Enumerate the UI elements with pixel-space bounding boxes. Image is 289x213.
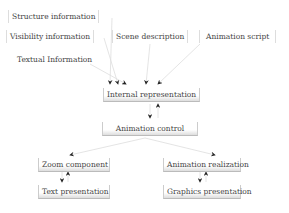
- text-presentation-box: Text presentation: [38, 185, 110, 199]
- structure-information-box: Structure information: [8, 10, 99, 23]
- internal-representation-box: Internal representation: [103, 88, 200, 102]
- animation-control-box: Animation control: [102, 122, 198, 136]
- graphics-presentation-box: Graphics presentation: [163, 185, 241, 199]
- zoom-component-box: Zoom component: [38, 158, 110, 172]
- animation-script-box: Animation script: [199, 30, 276, 43]
- animation-realization-box: Animation realization: [163, 158, 241, 172]
- scene-description-box: Scene description: [112, 30, 188, 43]
- textual-information-box: Textual Information: [14, 53, 95, 66]
- visibility-information-box: Visibility information: [6, 30, 94, 43]
